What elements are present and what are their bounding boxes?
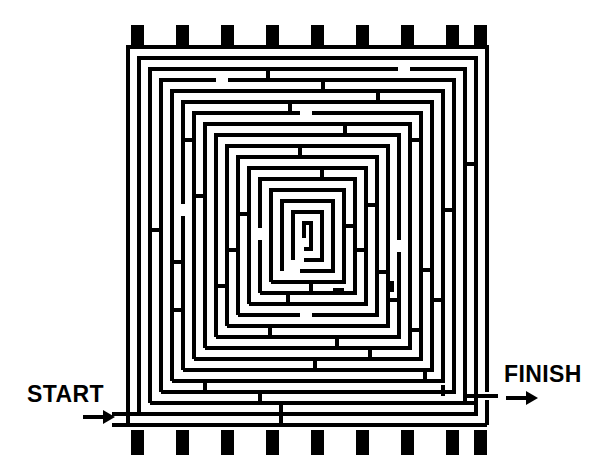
arrow-right-icon-start [83, 408, 117, 426]
finish-label: FINISH [504, 363, 582, 386]
maze-page: START FINISH [0, 0, 611, 475]
arrow-right-icon-finish [506, 389, 540, 407]
start-label: START [27, 383, 104, 406]
